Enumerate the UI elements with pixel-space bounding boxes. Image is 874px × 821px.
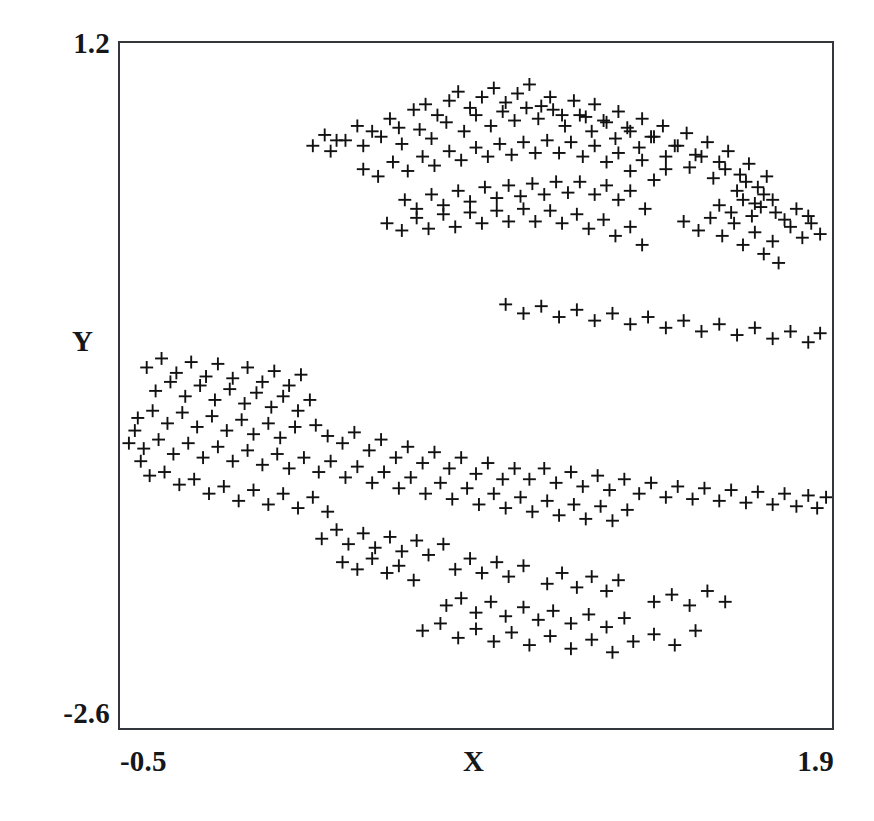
y-axis-max-tick-label: 1.2 — [48, 27, 110, 60]
x-axis-min-tick-label: -0.5 — [120, 745, 167, 778]
scatter-points-layer — [120, 43, 832, 728]
plot-area-frame — [118, 41, 834, 730]
x-axis-title: X — [463, 745, 484, 778]
y-axis-min-tick-label: -2.6 — [36, 697, 110, 730]
x-axis-max-tick-label: 1.9 — [770, 745, 834, 778]
scatter-plot-figure: 1.2 -2.6 -0.5 1.9 Y X — [0, 0, 874, 821]
y-axis-title: Y — [72, 325, 93, 358]
